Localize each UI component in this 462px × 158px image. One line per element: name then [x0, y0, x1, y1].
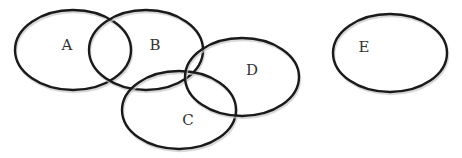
- set-e: E: [333, 14, 448, 94]
- set-b-label: B: [149, 36, 160, 54]
- set-a: A: [15, 10, 132, 92]
- set-c-label: C: [182, 111, 193, 129]
- set-a-ellipse: [15, 10, 131, 90]
- set-e-ellipse: [333, 14, 447, 92]
- set-a-label: A: [61, 36, 73, 54]
- set-diagram: A B C D E: [0, 0, 462, 158]
- set-e-label: E: [359, 38, 370, 56]
- set-d-label: D: [246, 61, 258, 79]
- set-d: D: [185, 38, 300, 118]
